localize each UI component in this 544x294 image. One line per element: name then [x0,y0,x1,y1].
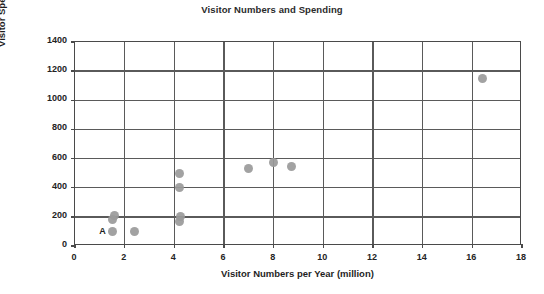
gridline-vertical [422,42,423,244]
data-point-label: A [99,226,106,236]
y-axis-tick-label: 800 [27,122,67,132]
x-axis-tick-label: 0 [59,252,89,262]
x-axis-tick [124,244,125,248]
gridline-horizontal [75,100,520,101]
y-axis-tick [71,216,75,217]
y-axis-tick-label: 600 [27,152,67,162]
plot-area: A [74,41,521,245]
data-point [110,211,119,220]
y-axis-tick [71,245,75,246]
gridline-vertical [223,42,224,244]
x-axis-tick [223,244,224,248]
gridline-vertical [273,42,274,244]
x-axis-tick-label: 2 [109,252,139,262]
y-axis-tick-label: 0 [27,239,67,249]
x-axis-title: Visitor Numbers per Year (million) [74,268,521,279]
y-axis-tick [71,187,75,188]
data-point [108,227,117,236]
y-axis-tick [71,41,75,42]
gridline-horizontal [75,216,520,217]
data-point [244,164,253,173]
x-axis-tick-label: 12 [357,252,387,262]
y-axis-tick-label: 1400 [27,35,67,45]
data-point [175,169,184,178]
data-point [130,227,139,236]
y-axis-tick [71,158,75,159]
gridline-vertical [323,42,324,244]
gridline-horizontal [75,158,520,159]
y-axis-tick [71,100,75,101]
data-point [175,183,184,192]
y-axis-tick-label: 1000 [27,93,67,103]
gridline-vertical [174,42,175,244]
chart-title: Visitor Numbers and Spending [0,4,544,15]
scatter-chart: Visitor Numbers and Spending Visitor Spe… [0,0,544,294]
data-point [176,212,185,221]
y-axis-tick [71,70,75,71]
x-axis-tick-label: 14 [407,252,437,262]
x-axis-tick-label: 6 [208,252,238,262]
x-axis-tick-label: 8 [258,252,288,262]
data-point [478,74,487,83]
x-axis-tick [323,244,324,248]
y-axis-tick-label: 200 [27,210,67,220]
x-axis-tick [174,244,175,248]
gridline-vertical [372,42,373,244]
x-axis-tick-label: 10 [307,252,337,262]
y-axis-tick-label: 400 [27,181,67,191]
x-axis-tick [521,244,522,248]
data-point [269,158,278,167]
gridline-horizontal [75,129,520,130]
x-axis-tick [273,244,274,248]
gridline-horizontal [75,70,520,71]
x-axis-tick-label: 16 [456,252,486,262]
gridline-horizontal [75,187,520,188]
gridline-vertical [472,42,473,244]
data-point [287,162,296,171]
x-axis-tick [472,244,473,248]
x-axis-tick-label: 18 [506,252,536,262]
y-axis-tick [71,129,75,130]
y-axis-tick-label: 1200 [27,64,67,74]
x-axis-tick [372,244,373,248]
x-axis-tick [422,244,423,248]
y-axis-title: Visitor Spending (£m) [0,0,7,78]
gridline-vertical [124,42,125,244]
x-axis-tick-label: 4 [158,252,188,262]
